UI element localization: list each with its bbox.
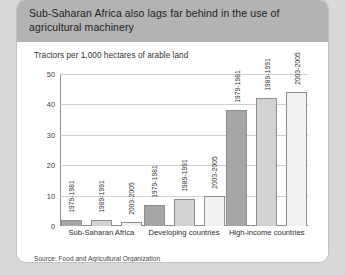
bar-series-label: 1979-1981 (151, 165, 158, 197)
chart-card: Sub-Saharan Africa also lags far behind … (17, 0, 328, 262)
bar-series-label: 1989-1991 (263, 59, 270, 91)
bar-group: 1979-19811989-19912003-2005 (225, 74, 308, 226)
bar[interactable] (61, 220, 82, 226)
bar-slot: 1979-1981 (61, 74, 82, 226)
bar[interactable] (286, 92, 307, 226)
y-axis-tick-label: 10 (47, 191, 55, 200)
bar[interactable] (174, 199, 195, 226)
bar-series-label: 1989-1991 (181, 159, 188, 191)
bar-slot: 1979-1981 (144, 74, 165, 226)
bar-series-label: 2003-2005 (293, 53, 300, 85)
bar-slot: 1979-1981 (226, 74, 247, 226)
chart-title: Sub-Saharan Africa also lags far behind … (17, 0, 328, 42)
chart-subtitle: Tractors per 1,000 hectares of arable la… (34, 51, 188, 60)
x-axis-group-labels: Sub-Saharan AfricaDeveloping countriesHi… (60, 228, 308, 238)
x-axis-category-label: High-income countries (225, 228, 308, 238)
bar-series-label: 2003-2005 (211, 156, 218, 188)
chart-source: Source: Food and Agricultural Organizati… (34, 255, 160, 262)
bar-slot: 1989-1991 (91, 74, 112, 226)
bar[interactable] (121, 222, 142, 226)
bar-slot: 2003-2005 (121, 74, 142, 226)
x-axis-category-label: Developing countries (143, 228, 226, 238)
bar[interactable] (144, 205, 165, 226)
bar-series-label: 1979-1981 (233, 71, 240, 103)
bar-series-label: 2003-2005 (128, 182, 135, 214)
y-axis-tick-label: 20 (47, 161, 55, 170)
y-axis-tick-label: 40 (47, 100, 55, 109)
bar-slot: 1989-1991 (174, 74, 195, 226)
bar[interactable] (256, 98, 277, 226)
y-axis-tick-label: 50 (47, 70, 55, 79)
bar[interactable] (204, 196, 225, 226)
bar-series-label: 1989-1991 (98, 180, 105, 212)
bar-groups: 1979-19811989-19912003-20051979-19811989… (60, 74, 308, 226)
bar[interactable] (226, 110, 247, 226)
bar-series-label: 1979-1981 (68, 180, 75, 212)
bar-slot: 2003-2005 (286, 74, 307, 226)
y-axis-tick-label: 0 (51, 222, 55, 231)
y-axis-tick-label: 30 (47, 130, 55, 139)
chart-body: Tractors per 1,000 hectares of arable la… (17, 42, 328, 262)
bar-group: 1979-19811989-19912003-2005 (60, 74, 143, 226)
bar-slot: 2003-2005 (204, 74, 225, 226)
bar-group: 1979-19811989-19912003-2005 (143, 74, 226, 226)
bar[interactable] (91, 220, 112, 226)
bar-slot: 1989-1991 (256, 74, 277, 226)
x-axis-category-label: Sub-Saharan Africa (60, 228, 143, 238)
plot-area: 01020304050 1979-19811989-19912003-20051… (60, 74, 308, 226)
